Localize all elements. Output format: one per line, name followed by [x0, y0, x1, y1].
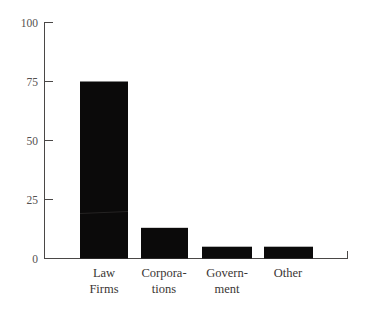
- category-label-corporations-line2: tions: [152, 282, 176, 296]
- y-tick-label-75: 75: [27, 76, 39, 88]
- y-tick-label-0: 0: [32, 253, 38, 265]
- bar-government: [202, 247, 252, 259]
- bar-law-firms: [80, 82, 128, 259]
- category-label-corporations-line1: Corpora-: [141, 266, 186, 280]
- bar-chart-figure: 100 75 50 25 0 Law Firms Corpora- tions …: [0, 0, 366, 312]
- category-label-government-line2: ment: [215, 282, 241, 296]
- category-label-government-line1: Govern-: [206, 266, 248, 280]
- y-tick-label-100: 100: [21, 17, 39, 29]
- chart-canvas: 100 75 50 25 0 Law Firms Corpora- tions …: [0, 0, 366, 312]
- y-tick-label-25: 25: [27, 194, 39, 206]
- category-label-law-firms-line2: Firms: [89, 282, 118, 296]
- y-tick-label-50: 50: [27, 135, 39, 147]
- bar-other: [264, 247, 313, 259]
- category-label-other-line1: Other: [274, 266, 303, 280]
- category-label-law-firms-line1: Law: [93, 266, 115, 280]
- bar-corporations: [141, 228, 188, 259]
